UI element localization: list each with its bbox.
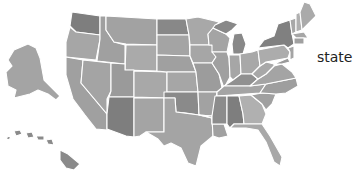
state-MT[interactable] bbox=[106, 16, 157, 45]
state-ND[interactable] bbox=[157, 19, 189, 35]
state-NM[interactable] bbox=[134, 98, 164, 137]
state-AZ[interactable] bbox=[107, 97, 134, 137]
state-CO[interactable] bbox=[134, 71, 167, 98]
state-CT[interactable] bbox=[294, 38, 304, 44]
state-NY[interactable] bbox=[258, 20, 294, 48]
state-FL[interactable] bbox=[230, 124, 282, 166]
legend-label: state bbox=[317, 49, 352, 65]
state-HI[interactable] bbox=[6, 130, 80, 170]
state-KS[interactable] bbox=[167, 72, 198, 92]
us-choropleth-map bbox=[0, 0, 353, 175]
state-SD[interactable] bbox=[157, 35, 190, 56]
state-WY[interactable] bbox=[125, 45, 157, 71]
state-AK[interactable] bbox=[6, 44, 60, 100]
state-ME[interactable] bbox=[300, 2, 316, 30]
state-MI[interactable] bbox=[232, 33, 246, 54]
state-MS[interactable] bbox=[212, 96, 227, 124]
